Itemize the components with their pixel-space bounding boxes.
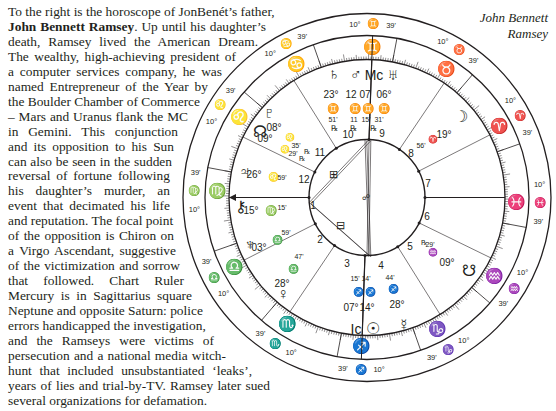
planet-position-label: 14' <box>361 275 370 282</box>
planet-position-label: ♐ <box>353 286 364 297</box>
house-number-11: 11 <box>315 147 326 158</box>
zodiac-sign-icon: ♍ <box>208 182 227 200</box>
pluto-icon: ♇ <box>263 104 275 121</box>
cusp-minute-label: 39' <box>523 128 533 137</box>
planet-position-label: 03° <box>251 242 266 253</box>
planet-position-label: 51' <box>328 116 337 123</box>
cusp-minute-label: 39' <box>533 217 543 226</box>
cusp-marker <box>335 147 338 150</box>
planet-position-label: 28° <box>389 299 404 310</box>
cusp-minute-label: 39' <box>498 299 508 308</box>
cusp-degree-label: 10° <box>285 348 296 357</box>
planet-position-label: ℞ <box>370 124 377 133</box>
planet-position-label: 15' <box>350 275 359 282</box>
cusp-minute-label: 39' <box>256 329 266 338</box>
cusp-minute-label: 39' <box>191 168 201 177</box>
outer-sign-glyph-icon: ♌ <box>214 98 226 111</box>
cusp-marker <box>313 171 316 174</box>
planet-position-label: 15° <box>243 205 258 216</box>
cusp-degree-label: 10° <box>189 205 200 214</box>
saturn-icon: ♄ <box>328 65 340 82</box>
cusp-degree-label: 10° <box>349 20 360 29</box>
house-number-3: 3 <box>344 258 350 269</box>
planet-position-label: ℞ <box>299 155 305 162</box>
planet-position-label: 15' <box>277 204 286 211</box>
planet-position-label: 47' <box>294 253 303 260</box>
zodiac-sign-icon: ♎ <box>225 258 244 276</box>
cusp-minute-label: 39' <box>386 21 396 30</box>
planet-position-label: 29' <box>425 241 434 248</box>
cusp-degree-label: 10° <box>265 49 276 58</box>
cusp-minute-label: 39' <box>297 32 307 41</box>
cusp-degree-label: 10° <box>437 37 448 46</box>
planet-position-label: 14° <box>359 302 374 313</box>
mc-icon: Mc <box>365 67 384 83</box>
aspect-opposition-icon: ☍ <box>362 193 370 202</box>
planet-position-label: ♒ <box>428 247 438 257</box>
cusp-degree-label: 10° <box>505 96 516 105</box>
zodiac-sign-icon: ♋ <box>287 55 306 73</box>
house-number-8: 8 <box>408 148 414 159</box>
cusp-marker <box>417 170 420 173</box>
aspect-square-icon: ⊞ <box>329 168 338 180</box>
cusp-marker <box>314 222 317 225</box>
planet-position-label: ℞ <box>331 124 338 133</box>
cusp-marker <box>333 244 336 247</box>
mars-icon: ♂ <box>350 66 362 83</box>
cusp-minute-label: 39' <box>226 86 236 95</box>
cusp-degree-label: 10° <box>206 117 217 126</box>
planet-position-label: 35' <box>291 142 300 149</box>
outer-sign-glyph-icon: ♐ <box>355 363 367 376</box>
zodiac-sign-icon: ♒ <box>485 267 504 285</box>
cusp-degree-label: 10° <box>534 180 545 189</box>
house-number-12: 12 <box>298 174 310 185</box>
planet-position-label: ♌ <box>285 132 295 142</box>
planet-position-label: 12 <box>345 89 357 100</box>
planet-position-label: ♐ <box>365 286 376 297</box>
house-number-9: 9 <box>379 128 385 139</box>
cusp-minute-label: 39' <box>338 364 348 373</box>
planet-position-label: 06° <box>376 89 391 100</box>
outer-sign-glyph-icon: ♍ <box>188 184 200 197</box>
zodiac-sign-icon: ♑ <box>428 320 447 338</box>
house-number-6: 6 <box>424 211 430 222</box>
planet-position-label: 56' <box>416 142 425 149</box>
house-number-10: 10 <box>342 129 354 140</box>
house-number-4: 4 <box>378 260 384 271</box>
planet-position-label: 23° <box>323 89 338 100</box>
planet-position-label: 11 <box>350 116 357 123</box>
cusp-degree-label: 10° <box>373 365 384 374</box>
planet-position-label: ♐ <box>388 283 399 294</box>
planet-position-label: 44' <box>385 274 394 281</box>
cusp-degree-label: 10° <box>458 336 469 345</box>
cusp-marker <box>418 221 421 224</box>
zodiac-sign-icon: ♏ <box>278 315 297 333</box>
ic-icon: Ic <box>351 321 362 337</box>
outer-sign-glyph-icon: ♊ <box>367 17 379 30</box>
planet-position-label: ♎ <box>288 263 299 274</box>
outer-sign-glyph-icon: ♑ <box>442 343 454 356</box>
cusp-minute-label: 39' <box>427 353 437 362</box>
outer-sign-glyph-icon: ♏ <box>269 337 281 350</box>
mercury-icon: ☿ <box>398 316 410 333</box>
cusp-marker <box>396 245 399 248</box>
planet-position-label: 28° <box>274 278 289 289</box>
planet-position-label: ♊ <box>349 102 361 115</box>
planet-position-label: 26° <box>246 169 261 180</box>
planet-position-label: ♊ <box>378 102 390 115</box>
natal-chart-wheel: ♊10°39'♉10°39'♈10°39'♓10°39'♒10°39'♑10°3… <box>0 0 556 411</box>
planet-position-label: ♊ <box>327 102 339 115</box>
moon-icon: ☽ <box>454 108 468 125</box>
sun-icon: ☉ <box>366 320 380 337</box>
zodiac-sign-icon: ♉ <box>437 60 456 78</box>
planet-position-label: 09° <box>257 133 272 144</box>
uranus-icon: ♅ <box>387 66 399 83</box>
zodiac-sign-icon: ♓ <box>507 193 526 211</box>
zodiac-sign-icon: ♈ <box>490 117 509 135</box>
planet-position-label: 09° <box>439 257 454 268</box>
outer-sign-glyph-icon: ♒ <box>508 282 520 295</box>
planet-position-label: ♎ <box>272 234 283 245</box>
house-number-7: 7 <box>425 178 431 189</box>
planet-position-label: 59' <box>277 174 286 181</box>
cusp-minute-label: 39' <box>202 257 212 266</box>
